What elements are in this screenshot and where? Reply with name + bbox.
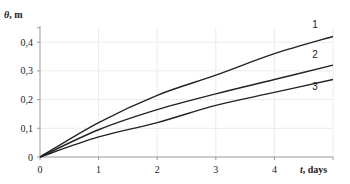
x-tick-label: 0 [38, 164, 43, 175]
x-tick-label: 1 [96, 164, 101, 175]
tick-labels: 00,10,20,30,401234 [21, 37, 277, 175]
curve-label-1: 1 [312, 19, 318, 30]
chart: 00,10,20,30,401234 123 θ, m t, days [0, 0, 350, 184]
y-tick-label: 0 [28, 152, 33, 163]
y-axis-title: θ, m [4, 9, 23, 20]
y-tick-label: 0,1 [21, 123, 34, 134]
curves [40, 36, 333, 157]
x-tick-label: 2 [155, 164, 160, 175]
curve-labels: 123 [312, 19, 318, 91]
y-tick-label: 0,2 [21, 94, 34, 105]
x-tick-label: 3 [213, 164, 218, 175]
grid [40, 28, 333, 157]
axes [37, 26, 333, 160]
x-tick-label: 4 [272, 164, 277, 175]
curve-2 [40, 65, 333, 157]
curve-3 [40, 80, 333, 157]
y-tick-label: 0,4 [21, 37, 34, 48]
y-tick-label: 0,3 [21, 65, 34, 76]
curve-label-2: 2 [312, 49, 318, 60]
curve-label-3: 3 [312, 81, 318, 92]
x-axis-title: t, days [300, 164, 327, 175]
curve-1 [40, 36, 333, 157]
